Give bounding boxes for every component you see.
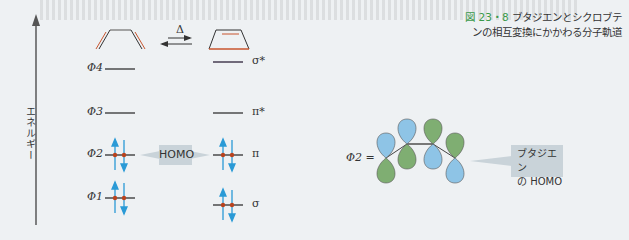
- butadiene-level-phi4: Φ4: [87, 61, 103, 74]
- cyclobutene-structure: [209, 30, 249, 49]
- homo-label-box: HOMO: [159, 145, 192, 165]
- butadiene-level-phi2: Φ2: [87, 147, 103, 160]
- cyclobutene-level-sigma-star: σ*: [252, 54, 265, 67]
- equilibrium-arrows: [160, 35, 192, 47]
- butadiene-structure: [96, 30, 145, 49]
- butadiene-homo-callout: ブタジエン の HOMO: [511, 145, 563, 177]
- heat-label: Δ: [176, 23, 184, 36]
- cyclobutene-level-pi-star: π*: [252, 105, 265, 118]
- homo-orbital-picture: [377, 119, 464, 183]
- energy-axis-label: エネルギー: [22, 106, 37, 161]
- callout-line-2: の HOMO: [517, 175, 563, 189]
- callout-line-1: ブタジエン: [517, 147, 563, 175]
- cyclobutene-level-sigma: σ: [252, 197, 260, 210]
- butadiene-level-phi3: Φ3: [87, 105, 103, 118]
- butadiene-level-phi1: Φ1: [87, 190, 103, 203]
- orbital-picture-label: Φ2 =: [346, 151, 375, 164]
- cyclobutene-level-pi: π: [252, 147, 259, 160]
